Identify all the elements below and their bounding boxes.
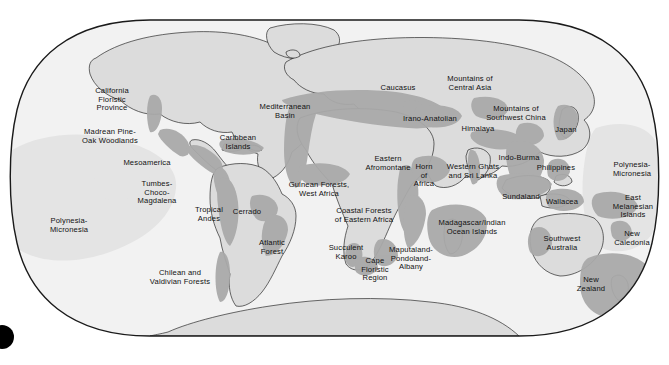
globe-body [0, 0, 669, 365]
world-map-figure: California Floristic ProvinceMadrean Pin… [0, 0, 669, 365]
map-graphic [0, 0, 669, 365]
